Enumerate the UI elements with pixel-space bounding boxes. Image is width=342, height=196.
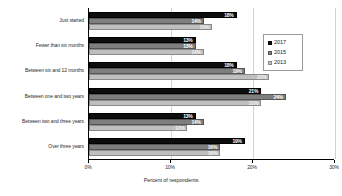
x-tick-label: 30% — [329, 164, 339, 170]
x-tick-label: 20% — [247, 164, 257, 170]
x-tick — [88, 160, 89, 163]
category-label-3: Between six and 12 months — [25, 68, 84, 73]
bar-2013-3: 22% — [89, 74, 269, 80]
legend-label: 2015 — [274, 50, 286, 56]
plot-area: 18%14%15%13%13%14%18%19%22%21%24%21%13%1… — [88, 8, 334, 160]
bar-row: 15% — [89, 24, 334, 30]
legend-swatch-icon — [268, 41, 272, 45]
x-tick — [252, 160, 253, 163]
bar-value-label: 12% — [175, 125, 184, 130]
bar-2013-4: 21% — [89, 100, 261, 106]
bar-value-label: 18% — [224, 12, 233, 17]
bar-value-label: 21% — [249, 88, 258, 93]
legend-label: 2017 — [274, 40, 286, 46]
bar-2013-1: 15% — [89, 24, 212, 30]
bar-row: 21% — [89, 100, 334, 106]
chart-legend: 201720152013 — [263, 34, 303, 71]
category-label-5: Between two and three years — [22, 119, 84, 124]
bar-value-label: 16% — [208, 151, 217, 156]
bar-group: 19%16%16% — [89, 135, 334, 160]
x-tick — [334, 160, 335, 163]
bar-value-label: 15% — [200, 24, 209, 29]
bar-group: 13%14%12% — [89, 109, 334, 134]
category-label-6: Over three years — [48, 144, 84, 149]
x-tick — [170, 160, 171, 163]
legend-swatch-icon — [268, 51, 272, 55]
bar-value-label: 21% — [249, 100, 258, 105]
bar-value-label: 14% — [191, 119, 200, 124]
legend-swatch-icon — [268, 61, 272, 65]
gridline — [335, 8, 336, 159]
bar-row: 12% — [89, 125, 334, 131]
category-label-2: Fewer than six months — [36, 43, 84, 48]
bar-2013-2: 14% — [89, 49, 204, 55]
x-axis-title: Percent of respondents — [0, 177, 342, 183]
x-tick-label: 10% — [165, 164, 175, 170]
bar-group: 18%14%15% — [89, 8, 334, 33]
bar-2013-5: 12% — [89, 125, 187, 131]
bar-value-label: 19% — [232, 69, 241, 74]
bar-value-label: 24% — [273, 94, 282, 99]
x-tick-label: 0% — [84, 164, 91, 170]
legend-item-2013[interactable]: 2013 — [268, 58, 299, 67]
category-label-4: Between one and two years — [25, 94, 84, 99]
bar-row: 16% — [89, 150, 334, 156]
bar-2013-6: 16% — [89, 150, 220, 156]
bar-value-label: 19% — [232, 139, 241, 144]
bar-chart: 18%14%15%13%13%14%18%19%22%21%24%21%13%1… — [0, 0, 342, 196]
bar-value-label: 14% — [191, 49, 200, 54]
bar-row: 22% — [89, 74, 334, 80]
legend-item-2015[interactable]: 2015 — [268, 48, 299, 57]
bar-value-label: 22% — [257, 75, 266, 80]
category-label-1: Just started — [59, 18, 84, 23]
bar-group: 21%24%21% — [89, 84, 334, 109]
legend-item-2017[interactable]: 2017 — [268, 38, 299, 47]
legend-label: 2013 — [274, 60, 286, 66]
